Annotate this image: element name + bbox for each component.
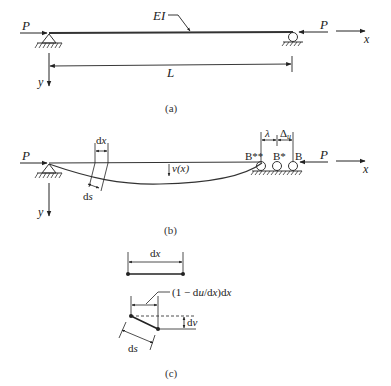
projection-label: (1 − du/dx)dx (172, 286, 232, 299)
force-label-right-a: P (319, 17, 328, 32)
stiffness-label: EI (152, 8, 166, 23)
dx-label-c: dx (150, 247, 161, 259)
caption-b: (b) (164, 224, 177, 237)
figure-a: P P x y EI L (a) (20, 8, 370, 115)
roller-support-icon (282, 33, 303, 47)
beam-buckling-diagram: P P x y EI L (a) (0, 0, 391, 386)
ds-label-c: ds (128, 342, 138, 354)
figure-b: P y dx ds v(x) (20, 127, 369, 237)
roller-supports-icon (251, 162, 302, 176)
reference-axis-b (49, 162, 262, 163)
caption-c: (c) (165, 367, 178, 380)
point-B-label: B (295, 150, 302, 162)
figure-c: dx (1 − du/dx)dx dv ds (c) (119, 247, 232, 380)
pin-support-icon (35, 164, 62, 178)
point-B2-label: B** (245, 150, 263, 162)
x-axis-label-b: x (362, 162, 369, 176)
ds-label-b: ds (83, 190, 93, 202)
deflection-label: v(x) (172, 162, 189, 175)
caption-a: (a) (165, 102, 178, 115)
force-label-left-a: P (21, 18, 30, 33)
deformed-element (131, 316, 158, 329)
beam-a (49, 32, 293, 33)
y-axis-label-a: y (37, 75, 44, 89)
deflected-beam-curve (49, 163, 262, 184)
pin-support-icon (35, 34, 62, 48)
stiffness-leader (168, 15, 190, 31)
lambda-label: λ (264, 127, 270, 139)
delta-label: Δu (280, 127, 291, 141)
dx-label-b: dx (96, 134, 107, 146)
dv-label: dv (187, 316, 198, 328)
point-B1-label: B* (273, 150, 286, 162)
length-label: L (166, 65, 174, 80)
x-axis-label-a: x (363, 32, 370, 46)
force-label-right-b: P (319, 147, 328, 162)
force-label-left-b: P (21, 148, 30, 163)
y-axis-label-b: y (37, 205, 44, 219)
